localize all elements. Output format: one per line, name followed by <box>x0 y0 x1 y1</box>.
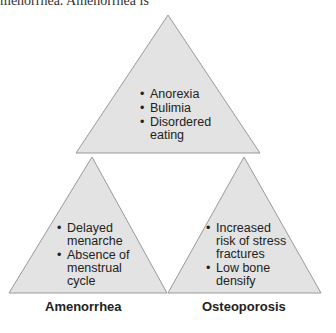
list-item: Bulimia <box>140 102 220 115</box>
list-item: Disordered eating <box>140 116 220 142</box>
list-item: Absence of menstrual cycle <box>57 249 137 288</box>
list-item: Anorexia <box>140 88 220 101</box>
list-item: Increased risk of stress fractures <box>206 222 288 261</box>
top-triangle-list: Anorexia Bulimia Disordered eating <box>140 88 220 143</box>
left-triangle-list: Delayed menarche Absence of menstrual cy… <box>57 222 137 289</box>
right-triangle-list: Increased risk of stress fractures Low b… <box>206 222 288 289</box>
list-item: Low bone densify <box>206 262 288 288</box>
list-item: Delayed menarche <box>57 222 137 248</box>
amenorrhea-label: Amenorrhea <box>45 299 122 314</box>
osteoporosis-label: Osteoporosis <box>202 299 286 314</box>
